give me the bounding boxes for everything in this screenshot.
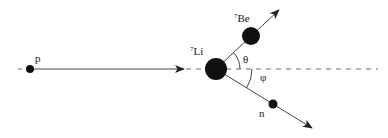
lithium-label: 7Li	[190, 45, 203, 57]
beryllium-symbol: Be	[238, 12, 250, 24]
theta-label: θ	[243, 53, 248, 65]
theta-angle-arc	[234, 53, 241, 69]
neutron-label: n	[259, 107, 265, 119]
lithium-nucleus	[205, 58, 227, 80]
reaction-diagram: p 7Li 7Be θ φ n	[0, 0, 388, 138]
phi-angle-arc	[247, 69, 252, 88]
beryllium-nucleus	[242, 27, 260, 45]
beryllium-label: 7Be	[234, 12, 250, 24]
proton-label: p	[35, 52, 41, 64]
proton-particle	[26, 65, 34, 73]
neutron-particle	[269, 100, 278, 109]
phi-label: φ	[260, 71, 266, 83]
lithium-symbol: Li	[194, 45, 204, 57]
